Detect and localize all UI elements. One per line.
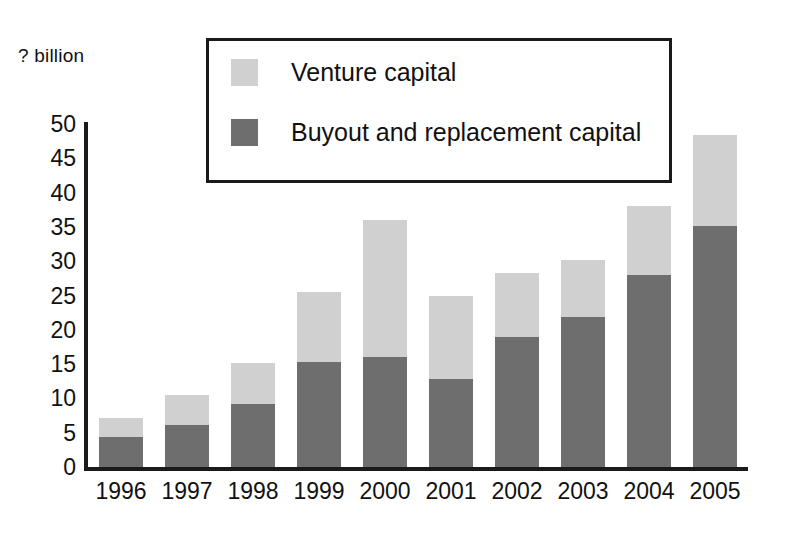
x-axis-tick-1999: 1999 bbox=[286, 478, 352, 505]
bar-segment-buyout-and-replacement-capital-2000 bbox=[363, 357, 407, 467]
y-axis-tick-20: 20 bbox=[50, 316, 76, 343]
x-axis-tick-2002: 2002 bbox=[484, 478, 550, 505]
bar-stack-1997 bbox=[165, 395, 209, 467]
bar-group-1996 bbox=[88, 124, 154, 467]
legend-entry-buyout-and-replacement-capital: Buyout and replacement capital bbox=[231, 119, 641, 146]
bar-segment-venture-capital-2003 bbox=[561, 260, 605, 317]
y-axis-tick-50: 50 bbox=[50, 111, 76, 138]
bar-segment-venture-capital-1997 bbox=[165, 395, 209, 425]
y-axis-tick-5: 5 bbox=[63, 419, 76, 446]
y-axis-tick-40: 40 bbox=[50, 179, 76, 206]
bar-segment-venture-capital-2005 bbox=[693, 135, 737, 226]
bar-stack-1996 bbox=[99, 418, 143, 467]
y-axis-tick-35: 35 bbox=[50, 213, 76, 240]
legend-entry-venture-capital: Venture capital bbox=[231, 59, 456, 86]
x-axis-tick-2004: 2004 bbox=[616, 478, 682, 505]
y-axis-tick-25: 25 bbox=[50, 282, 76, 309]
x-axis-tick-labels: 1996199719981999200020012002200320042005 bbox=[88, 478, 748, 505]
bar-stack-2003 bbox=[561, 260, 605, 467]
y-axis-unit-label: ? billion bbox=[18, 45, 84, 67]
y-axis-tick-15: 15 bbox=[50, 351, 76, 378]
x-axis-tick-1996: 1996 bbox=[88, 478, 154, 505]
x-axis-tick-2003: 2003 bbox=[550, 478, 616, 505]
x-axis-tick-2000: 2000 bbox=[352, 478, 418, 505]
x-axis-tick-2005: 2005 bbox=[682, 478, 748, 505]
x-axis-tick-1997: 1997 bbox=[154, 478, 220, 505]
bar-segment-buyout-and-replacement-capital-2004 bbox=[627, 275, 671, 467]
y-axis-tick-0: 0 bbox=[63, 454, 76, 481]
bar-segment-buyout-and-replacement-capital-2003 bbox=[561, 317, 605, 467]
chart-legend: Venture capital Buyout and replacement c… bbox=[206, 38, 672, 183]
bar-stack-1999 bbox=[297, 292, 341, 467]
y-axis-tick-45: 45 bbox=[50, 145, 76, 172]
legend-swatch-buyout-and-replacement-capital bbox=[231, 119, 258, 146]
bar-stack-2004 bbox=[627, 206, 671, 467]
bar-segment-venture-capital-2002 bbox=[495, 273, 539, 337]
bar-stack-2002 bbox=[495, 273, 539, 467]
bar-stack-1998 bbox=[231, 363, 275, 467]
bar-segment-buyout-and-replacement-capital-1996 bbox=[99, 437, 143, 467]
bar-segment-buyout-and-replacement-capital-2005 bbox=[693, 226, 737, 467]
bar-segment-venture-capital-1999 bbox=[297, 292, 341, 362]
y-axis-tick-30: 30 bbox=[50, 248, 76, 275]
x-axis-tick-1998: 1998 bbox=[220, 478, 286, 505]
bar-stack-2001 bbox=[429, 296, 473, 467]
legend-swatch-venture-capital bbox=[231, 59, 258, 86]
bar-stack-2005 bbox=[693, 135, 737, 467]
x-axis-tick-2001: 2001 bbox=[418, 478, 484, 505]
bar-segment-buyout-and-replacement-capital-1999 bbox=[297, 362, 341, 467]
bar-segment-venture-capital-2000 bbox=[363, 220, 407, 357]
bar-stack-2000 bbox=[363, 220, 407, 467]
bar-segment-buyout-and-replacement-capital-2001 bbox=[429, 379, 473, 467]
bar-group-2005 bbox=[682, 124, 748, 467]
y-axis-tick-10: 10 bbox=[50, 385, 76, 412]
bar-segment-venture-capital-2001 bbox=[429, 296, 473, 379]
bar-segment-buyout-and-replacement-capital-1998 bbox=[231, 404, 275, 467]
bar-segment-buyout-and-replacement-capital-2002 bbox=[495, 337, 539, 467]
bar-segment-buyout-and-replacement-capital-1997 bbox=[165, 425, 209, 467]
legend-label-buyout-and-replacement-capital: Buyout and replacement capital bbox=[291, 119, 641, 146]
bar-segment-venture-capital-1996 bbox=[99, 418, 143, 437]
legend-label-venture-capital: Venture capital bbox=[291, 59, 456, 86]
x-axis-line bbox=[84, 467, 748, 471]
bar-segment-venture-capital-1998 bbox=[231, 363, 275, 404]
bar-segment-venture-capital-2004 bbox=[627, 206, 671, 275]
